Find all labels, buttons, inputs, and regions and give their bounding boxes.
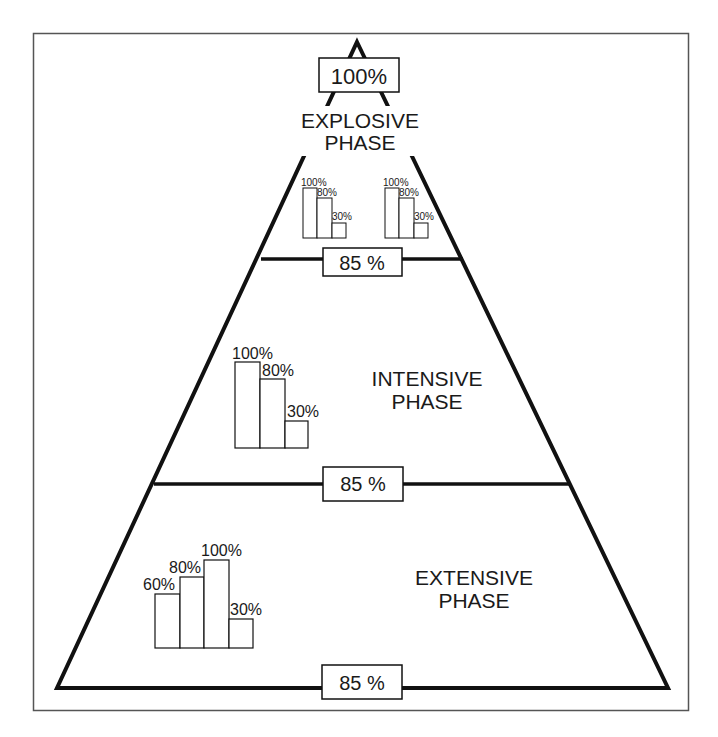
svg-text:80%: 80% [317, 187, 337, 198]
svg-text:30%: 30% [287, 403, 319, 420]
boundary-label-1: 85 % [339, 252, 385, 274]
svg-text:80%: 80% [262, 362, 294, 379]
explosive-phase-title-line1: EXPLOSIVE [301, 109, 419, 132]
extensive-phase-title-line2: PHASE [438, 589, 509, 612]
apex-label: 100% [331, 64, 387, 89]
svg-text:30%: 30% [332, 211, 352, 222]
boundary-label-3: 85 % [339, 672, 385, 694]
svg-text:80%: 80% [399, 187, 419, 198]
intensive-phase-title-line2: PHASE [391, 390, 462, 413]
svg-text:60%: 60% [143, 576, 175, 593]
svg-text:30%: 30% [230, 601, 262, 618]
intensive-phase-title-line1: INTENSIVE [372, 367, 483, 390]
svg-text:30%: 30% [414, 211, 434, 222]
svg-text:100%: 100% [232, 345, 273, 362]
svg-text:80%: 80% [169, 559, 201, 576]
explosive-phase-title-line2: PHASE [324, 131, 395, 154]
explosive-bar-group-1: 100% 80% 30% [301, 177, 352, 238]
pyramid-diagram: 100% EXPLOSIVE PHASE 100% 80% 30% 100% 8… [0, 0, 718, 737]
extensive-phase-title-line1: EXTENSIVE [415, 566, 533, 589]
svg-text:100%: 100% [201, 542, 242, 559]
boundary-label-2: 85 % [340, 473, 386, 495]
extensive-bar-group: 60% 80% 100% 30% [143, 542, 262, 648]
intensive-bar-group: 100% 80% 30% [232, 345, 319, 448]
